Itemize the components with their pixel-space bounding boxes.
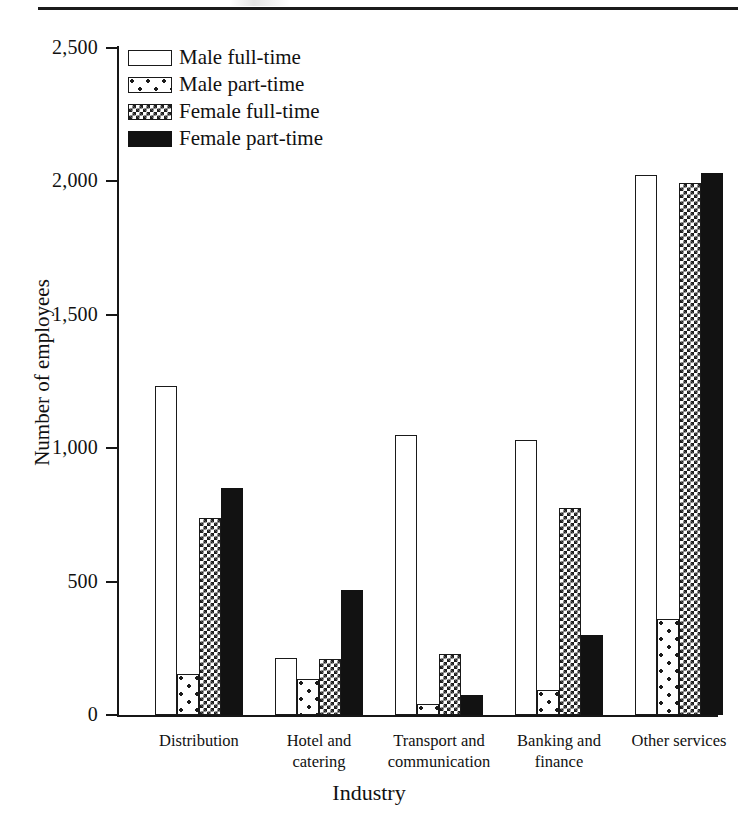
x-axis-category-label-line: Hotel and — [255, 730, 383, 751]
x-axis-line — [117, 715, 718, 717]
chart-legend: Male full-timeMale part-timeFemale full-… — [128, 44, 323, 152]
legend-item-label: Female full-time — [179, 101, 320, 122]
x-axis-category-label: Hotel andcatering — [255, 730, 383, 772]
y-axis-tick-label-text: 1,000 — [52, 437, 98, 457]
y-axis-tick-label-text: 2,000 — [52, 170, 98, 190]
legend-item: Male full-time — [128, 44, 323, 71]
x-axis-category-label: Distribution — [135, 730, 263, 751]
bar — [199, 518, 221, 715]
x-axis-title: Industry — [0, 780, 738, 806]
bar — [439, 654, 461, 715]
bar — [635, 175, 657, 715]
legend-item: Female full-time — [128, 98, 323, 125]
legend-swatch-icon — [128, 77, 172, 93]
y-axis-tick — [106, 714, 118, 716]
bar — [395, 435, 417, 715]
bar — [417, 704, 439, 715]
bar — [319, 659, 341, 715]
y-axis-tick-label-text: 0 — [88, 704, 98, 724]
bar-chart: 05001,0001,5002,0002,500 Number of emplo… — [0, 0, 738, 825]
legend-swatch-icon — [128, 131, 172, 147]
legend-item-label: Male full-time — [179, 47, 301, 68]
y-axis-tick-label-text: 1,500 — [52, 304, 98, 324]
y-axis-tick-label-text: 2,500 — [52, 37, 98, 57]
bar — [461, 695, 483, 715]
y-axis-tick — [106, 447, 118, 449]
x-axis-category-label: Other services — [615, 730, 738, 751]
x-axis-category-label-line: finance — [495, 751, 623, 772]
legend-item: Female part-time — [128, 125, 323, 152]
y-axis-tick-label-text: 500 — [67, 571, 98, 591]
bar — [341, 590, 363, 715]
figure-page: 05001,0001,5002,0002,500 Number of emplo… — [0, 0, 738, 825]
bar — [559, 508, 581, 715]
bar — [155, 386, 177, 715]
x-axis-category-label-line: Banking and — [495, 730, 623, 751]
x-axis-category-label-line: communication — [375, 751, 503, 772]
legend-item-label: Female part-time — [179, 128, 323, 149]
bar — [297, 679, 319, 715]
y-axis-tick — [106, 314, 118, 316]
x-axis-category-label: Transport andcommunication — [375, 730, 503, 772]
bar — [581, 635, 603, 715]
y-axis-tick — [106, 581, 118, 583]
y-axis-title: Number of employees — [30, 243, 55, 503]
x-axis-category-label-line: Other services — [615, 730, 738, 751]
bar — [679, 183, 701, 715]
y-axis-line — [117, 46, 119, 717]
legend-swatch-icon — [128, 50, 172, 66]
x-axis-category-label-line: Distribution — [135, 730, 263, 751]
bar — [537, 690, 559, 715]
legend-item-label: Male part-time — [179, 74, 304, 95]
bar — [657, 619, 679, 715]
bar — [515, 440, 537, 715]
legend-item: Male part-time — [128, 71, 323, 98]
bar — [177, 674, 199, 715]
y-axis-tick — [106, 47, 118, 49]
x-axis-category-label: Banking andfinance — [495, 730, 623, 772]
legend-swatch-icon — [128, 104, 172, 120]
bar — [221, 488, 243, 715]
bar — [275, 658, 297, 715]
x-axis-category-label-line: Transport and — [375, 730, 503, 751]
bar — [701, 173, 723, 715]
x-axis-category-label-line: catering — [255, 751, 383, 772]
y-axis-tick — [106, 180, 118, 182]
